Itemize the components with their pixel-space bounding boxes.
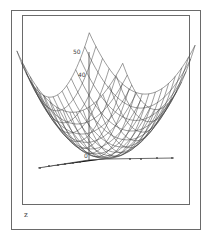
paraboloid-surface-plot: 50 40 0	[0, 0, 209, 240]
figure-caption: z	[24, 211, 28, 219]
z-tick-40: 40	[78, 71, 86, 78]
wireframe-mesh	[17, 33, 195, 159]
y-axis-line	[106, 158, 174, 159]
origin-tick: 0	[84, 152, 88, 159]
z-tick-50: 50	[73, 48, 81, 55]
axes	[38, 52, 174, 168]
x-axis-line	[38, 159, 106, 168]
